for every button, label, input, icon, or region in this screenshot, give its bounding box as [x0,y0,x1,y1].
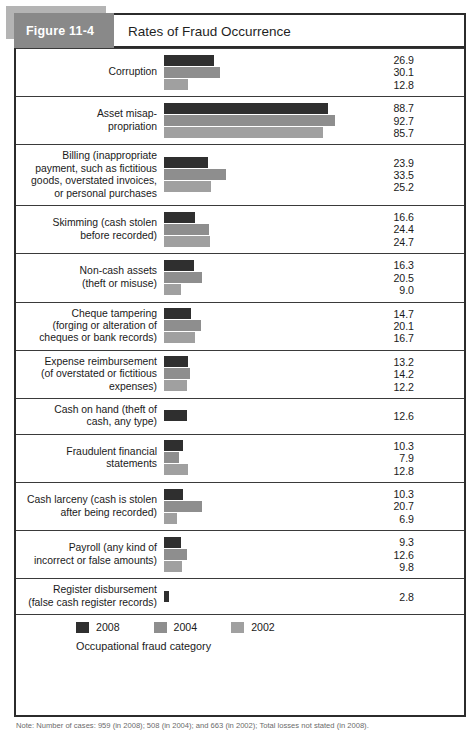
bar-2002 [164,236,210,247]
bar-2002 [164,332,195,343]
axis-caption: Occupational fraud category [76,640,464,652]
row-value: 20.7 [364,500,414,512]
row-label: Corruption [16,49,164,96]
row-value: 12.2 [364,381,414,393]
chart-row: Billing (inappropriatepayment, such as f… [16,144,464,205]
bar-2008 [164,260,194,271]
row-label-line: Fraudulent financial [20,446,157,458]
bar-2008 [164,591,169,602]
row-value: 85.7 [364,127,414,139]
row-spacer [420,579,464,614]
row-value: 12.8 [364,465,414,477]
bar-2004 [164,169,226,180]
row-value: 9.8 [364,561,414,573]
row-bars [164,483,364,530]
legend-label: 2008 [96,621,120,633]
row-label-line: Cash larceny (cash is stolen [20,494,157,506]
figure-header: Figure 11-4 Rates of Fraud Occurrence [16,15,464,48]
chart-row: Register disbursement(false cash registe… [16,578,464,614]
row-label-line: before recorded) [20,230,157,242]
row-label-line: cash, any type) [20,416,157,428]
row-label-line: Corruption [20,66,157,78]
row-label-line: Cheque tampering [20,308,157,320]
row-spacer [420,145,464,205]
row-label-line: (forging or alteration of [20,320,157,332]
chart-row: Asset misap-propriation88.792.785.7 [16,96,464,144]
row-bars [164,399,364,434]
chart-row: Payroll (any kind ofincorrect or false a… [16,530,464,578]
legend-inner: 200820042002Occupational fraud category [74,621,464,652]
row-label-line: propriation [20,121,157,133]
row-value: 9.0 [364,284,414,296]
row-label: Cash on hand (theft ofcash, any type) [16,399,164,434]
row-label-line: Expense reimbursement [20,356,157,368]
bar-2008 [164,440,183,451]
row-value: 33.5 [364,169,414,181]
chart-row: Cash on hand (theft ofcash, any type)12.… [16,398,464,434]
row-value: 16.3 [364,259,414,271]
row-value: 14.7 [364,308,414,320]
row-value: 2.8 [364,591,414,603]
row-label: Payroll (any kind ofincorrect or false a… [16,531,164,578]
row-label: Skimming (cash stolenbefore recorded) [16,206,164,253]
legend-block: 200820042002Occupational fraud category [16,614,464,652]
row-label-line: cheques or bank records) [20,332,157,344]
legend-item-2002[interactable]: 2002 [231,621,275,633]
bar-2002 [164,284,181,295]
legend-swatch-icon [231,622,244,633]
row-spacer [420,97,464,144]
row-spacer [420,254,464,301]
row-value: 10.3 [364,440,414,452]
chart-row: Skimming (cash stolenbefore recorded)16.… [16,205,464,253]
row-label: Expense reimbursement(of overstated or f… [16,351,164,398]
row-label-line: (false cash register records) [20,597,157,609]
bar-2002 [164,513,177,524]
bar-2002 [164,380,187,391]
bar-2002 [164,127,323,138]
row-value: 88.7 [364,102,414,114]
row-value: 9.3 [364,536,414,548]
row-label-line: Payroll (any kind of [20,542,157,554]
row-values: 14.720.116.7 [364,303,420,350]
row-spacer [420,483,464,530]
row-label-line: after being recorded) [20,507,157,519]
row-value: 24.4 [364,223,414,235]
bar-2004 [164,67,220,78]
bar-2008 [164,103,328,114]
row-spacer [420,351,464,398]
legend-item-2008[interactable]: 2008 [76,621,120,633]
row-value: 30.1 [364,66,414,78]
chart-row: Cash larceny (cash is stolenafter being … [16,482,464,530]
row-label-line: (of overstated or fictitious [20,368,157,380]
legend-swatch-icon [76,622,89,633]
row-label-line: goods, overstated invoices, [20,175,157,187]
legend-item-2004[interactable]: 2004 [154,621,198,633]
row-value: 16.7 [364,332,414,344]
chart-row: Cheque tampering(forging or alteration o… [16,302,464,350]
row-value: 26.9 [364,54,414,66]
row-value: 23.9 [364,157,414,169]
legend-items: 200820042002 [76,621,464,633]
figure-note: Note: Number of cases: 959 (in 2008); 50… [16,721,476,730]
row-label-line: or personal purchases [20,188,157,200]
figure-number-badge: Figure 11-4 [14,13,114,48]
row-values: 2.8 [364,579,420,614]
row-label-line: Skimming (cash stolen [20,217,157,229]
row-bars [164,351,364,398]
bar-2008 [164,157,208,168]
chart-row: Fraudulent financialstatements10.37.912.… [16,434,464,482]
bar-2004 [164,115,335,126]
row-values: 16.320.59.0 [364,254,420,301]
row-values: 23.933.525.2 [364,145,420,205]
row-bars [164,303,364,350]
row-label: Asset misap-propriation [16,97,164,144]
bar-2008 [164,489,183,500]
row-spacer [420,435,464,482]
figure-title: Rates of Fraud Occurrence [128,15,291,48]
row-label: Fraudulent financialstatements [16,435,164,482]
bar-2008 [164,308,191,319]
row-bars [164,49,364,96]
row-label-line: Billing (inappropriate [20,150,157,162]
row-label-line: Cash on hand (theft of [20,404,157,416]
bar-2002 [164,561,182,572]
